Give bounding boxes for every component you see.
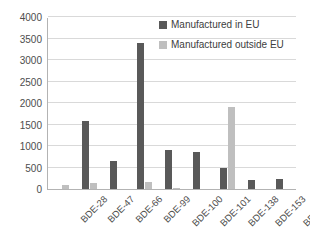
- y-axis-tick-label: 4000: [0, 13, 42, 23]
- bar: [90, 183, 97, 189]
- y-axis-tick-label: 1000: [0, 142, 42, 152]
- x-axis-tick-label: BDE-28: [78, 194, 109, 225]
- legend-item: Manufactured in EU: [159, 19, 284, 30]
- bar-group: [76, 18, 104, 189]
- bar-group: [131, 18, 159, 189]
- bar: [110, 161, 117, 189]
- x-axis-tick-label: BDE-47: [106, 194, 137, 225]
- bar: [220, 168, 227, 190]
- legend-swatch-icon: [159, 21, 167, 29]
- gridline: [48, 16, 296, 17]
- bar: [137, 43, 144, 189]
- legend-swatch-icon: [159, 41, 167, 49]
- bar: [276, 179, 283, 189]
- bar: [62, 185, 69, 189]
- y-axis-tick-label: 1500: [0, 121, 42, 131]
- bar-chart: 05001000150020002500300035004000 BDE-28B…: [0, 0, 310, 248]
- bar: [193, 152, 200, 189]
- legend-item-label: Manufactured in EU: [171, 19, 259, 30]
- y-axis-tick-label: 2000: [0, 99, 42, 109]
- bar: [145, 182, 152, 189]
- bar-group: [48, 18, 76, 189]
- bar-group: [103, 18, 131, 189]
- bar: [248, 180, 255, 189]
- x-axis-tick-label: BDE-66: [134, 194, 165, 225]
- y-axis-tick-label: 500: [0, 164, 42, 174]
- y-axis-tick-label: 2500: [0, 78, 42, 88]
- y-axis-tick-label: 0: [0, 185, 42, 195]
- legend-item-label: Manufactured outside EU: [171, 39, 284, 50]
- y-axis-tick-label: 3500: [0, 35, 42, 45]
- bar: [165, 150, 172, 189]
- x-axis-tick-label: BDE-99: [161, 194, 192, 225]
- y-axis-tick-label: 3000: [0, 56, 42, 66]
- bar: [228, 107, 235, 189]
- legend-item: Manufactured outside EU: [159, 39, 284, 50]
- bar: [82, 121, 89, 189]
- chart-legend: Manufactured in EUManufactured outside E…: [159, 19, 284, 59]
- bar: [173, 188, 180, 189]
